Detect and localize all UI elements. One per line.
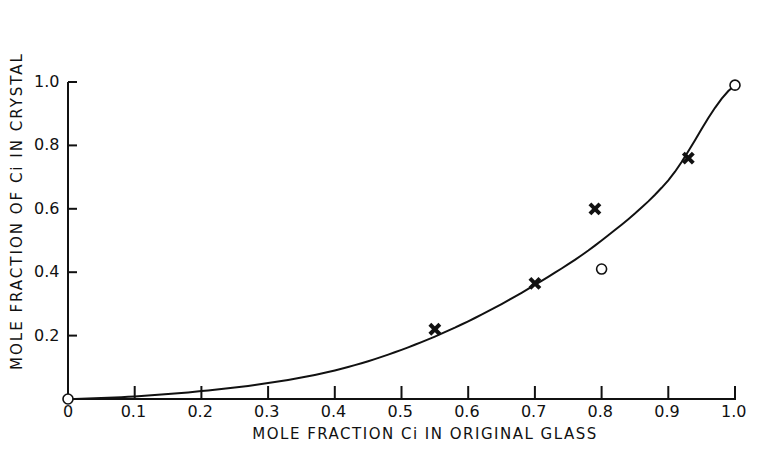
x-tick-label: 0.3 — [254, 402, 279, 421]
x-tick-label: 0.7 — [521, 402, 546, 421]
circle-marker — [730, 80, 740, 90]
y-tick-label: 0.8 — [34, 135, 59, 154]
chart-plot-area — [0, 0, 757, 452]
x-tick-label: 0.8 — [588, 402, 613, 421]
x-axis-title: MOLE FRACTION Ci IN ORIGINAL GLASS — [190, 425, 660, 443]
x-tick-label: 0.9 — [654, 402, 679, 421]
y-axis-title: MOLE FRACTION OF Ci IN CRYSTAL — [8, 41, 26, 381]
x-tick-label: 1.0 — [721, 402, 746, 421]
y-tick-label: 1.0 — [34, 72, 59, 91]
axes — [68, 82, 736, 399]
y-tick-label: 0.6 — [34, 199, 59, 218]
y-tick-label: 0.2 — [34, 326, 59, 345]
x-tick-label: 0.4 — [321, 402, 346, 421]
x-tick-label: 0.2 — [187, 402, 212, 421]
circle-marker — [597, 264, 607, 274]
x-tick-label: 0.5 — [388, 402, 413, 421]
x-tick-label: 0 — [63, 402, 73, 421]
fitted-curve — [68, 85, 735, 399]
y-tick-label: 0.4 — [34, 262, 59, 281]
x-tick-label: 0.6 — [454, 402, 479, 421]
cross-marker — [590, 204, 600, 214]
cross-marker — [430, 324, 440, 334]
x-tick-label: 0.1 — [121, 402, 146, 421]
